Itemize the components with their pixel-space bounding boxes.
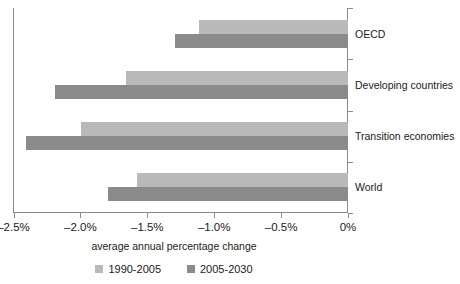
category-tick [348,8,353,9]
dark-gray-swatch [187,265,195,273]
bar-chart: OECDDeveloping countriesTransition econo… [0,0,460,284]
x-axis-tick-label: –1.0% [198,220,231,234]
x-axis-tick [14,213,15,218]
x-axis-tick [80,213,81,218]
legend-item-2005-2030[interactable]: 2005-2030 [187,262,253,276]
light-gray-swatch [95,265,103,273]
category-tick [348,111,353,112]
category-label-transition-economies: Transition economies [355,130,454,142]
x-axis-tick-label: –1.5% [131,220,164,234]
x-axis-tick [147,213,148,218]
category-label-developing-countries: Developing countries [355,79,453,91]
x-axis-tick-label: –2.5% [0,220,30,234]
legend-label: 2005-2030 [200,262,253,276]
legend-item-1990-2005[interactable]: 1990-2005 [95,262,161,276]
bars-layer [14,8,347,212]
x-axis-tick-label: 0% [340,220,357,234]
category-tick [348,162,353,163]
bar-developing-countries-2005-2030 [55,85,348,99]
plot-area [13,8,348,213]
bar-world-1990-2005 [137,173,348,187]
legend-label: 1990-2005 [108,262,161,276]
category-tick [348,59,353,60]
bar-world-2005-2030 [108,187,349,201]
bar-transition-economies-1990-2005 [81,122,349,136]
bar-transition-economies-2005-2030 [26,136,348,150]
x-axis-tick-label: –2.0% [64,220,97,234]
x-axis-tick [281,213,282,218]
bar-oecd-2005-2030 [175,34,349,48]
x-axis-tick [214,213,215,218]
category-label-world: World [355,181,382,193]
x-axis-title: average annual percentage change [0,240,348,253]
x-axis-tick [348,213,349,218]
category-label-oecd: OECD [355,28,385,40]
chart-legend: 1990-20052005-2030 [0,262,348,276]
x-axis-tick-label: –0.5% [265,220,298,234]
bar-oecd-1990-2005 [199,20,349,34]
bar-developing-countries-1990-2005 [126,71,348,85]
